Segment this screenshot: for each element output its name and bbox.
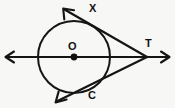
label-center-o: O (68, 41, 77, 52)
lower-tangent-line (57, 57, 148, 102)
label-tangent-point-x: X (89, 3, 96, 14)
geometry-figure: X T C O (0, 0, 175, 108)
center-point-dot (71, 54, 78, 61)
label-external-point-t: T (145, 38, 152, 49)
label-tangent-point-c: C (88, 90, 96, 101)
